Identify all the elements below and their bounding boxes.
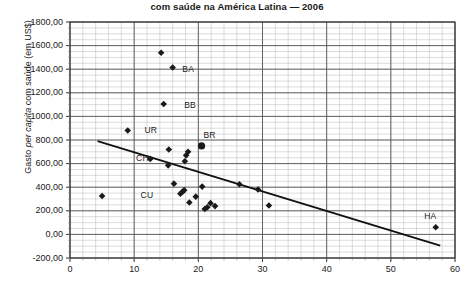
point-annotation: BB <box>184 101 196 110</box>
data-point <box>158 49 165 56</box>
x-tick-label: 0 <box>55 265 85 274</box>
y-tick-label: 400,00 <box>35 183 63 192</box>
y-tick-label: 1800,00 <box>30 18 63 27</box>
y-tick-label: 200,00 <box>35 206 63 215</box>
y-tick-label: -200,00 <box>32 254 63 263</box>
point-annotation: CU <box>141 191 154 200</box>
data-point <box>432 224 439 231</box>
x-tick-label: 40 <box>312 265 342 274</box>
x-tick-label: 10 <box>119 265 149 274</box>
scatter-chart: com saúde na América Latina — 2006 Gasto… <box>0 0 474 286</box>
y-tick-label: 1400,00 <box>30 65 63 74</box>
data-point <box>199 183 206 190</box>
point-annotation: BA <box>182 65 194 74</box>
y-tick-label: 800,00 <box>35 136 63 145</box>
data-point <box>266 202 273 209</box>
data-point <box>169 64 176 71</box>
point-annotation: CH <box>136 154 149 163</box>
data-point <box>160 101 167 108</box>
x-tick-label: 30 <box>248 265 278 274</box>
y-tick-label: 1000,00 <box>30 112 63 121</box>
axis-ticks <box>66 22 455 262</box>
data-point <box>198 142 205 149</box>
point-annotation: UR <box>144 126 157 135</box>
data-point <box>236 181 243 188</box>
plot-canvas <box>0 0 474 286</box>
x-tick-label: 50 <box>376 265 406 274</box>
y-tick-label: 600,00 <box>35 159 63 168</box>
point-annotation: HA <box>424 212 436 221</box>
x-tick-label: 60 <box>440 265 470 274</box>
point-annotation: BR <box>203 131 215 140</box>
data-point <box>99 193 106 200</box>
x-tick-label: 20 <box>183 265 213 274</box>
y-tick-label: 1600,00 <box>30 41 63 50</box>
y-tick-label: 1200,00 <box>30 88 63 97</box>
y-tick-label: 0,00 <box>45 230 63 239</box>
